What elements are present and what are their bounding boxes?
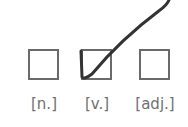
label-noun: [n.] <box>19 95 69 113</box>
label-verb: [v.] <box>72 95 122 113</box>
label-adjective: [adj.] <box>130 95 180 113</box>
